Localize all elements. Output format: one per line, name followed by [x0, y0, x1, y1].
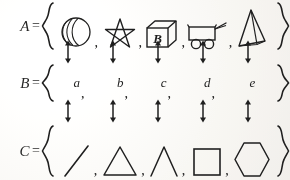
open-brace-A [41, 1, 55, 51]
diagonal-line-segment-icon [61, 140, 93, 180]
separator-comma: , [225, 164, 229, 178]
letter-e: e [249, 75, 255, 91]
separator-comma: , [95, 36, 99, 50]
sphere-icon [60, 16, 94, 52]
set-row-A: A = , , [0, 0, 290, 52]
separator-comma: , [81, 87, 85, 101]
item-square: , [187, 122, 230, 180]
cube-face-label: B [153, 31, 163, 46]
separator-comma: , [181, 36, 185, 50]
close-brace-C [276, 124, 290, 178]
item-letter-e: e [231, 63, 274, 103]
set-B-items: a , b , c , d , e [55, 63, 276, 103]
separator-comma: , [125, 87, 129, 101]
item-triangle: , [100, 122, 144, 180]
item-diagonal-line: , [57, 122, 100, 180]
five-pointed-star-icon [102, 16, 138, 52]
square-icon [190, 144, 224, 180]
close-brace-A [276, 1, 290, 51]
item-letter-b: b , [100, 63, 143, 103]
equals-sign-A: = [32, 18, 41, 34]
letter-a: a [74, 75, 81, 91]
item-sphere: , [57, 0, 100, 52]
set-label-A: A [0, 18, 32, 35]
set-A-items: , , B , [55, 0, 276, 52]
cube-with-letter-B-icon: B [144, 18, 180, 52]
set-row-C: C = , , [0, 122, 290, 180]
separator-comma: , [168, 87, 172, 101]
set-row-B: B = a , b , c , d , e [0, 63, 290, 103]
equals-sign-C: = [32, 143, 41, 159]
letter-d: d [204, 75, 211, 91]
set-label-B: B [0, 75, 32, 92]
item-hexagon [231, 122, 274, 180]
separator-comma: , [211, 87, 215, 101]
two-wheeled-cart-icon [186, 18, 228, 52]
hexagon-icon [232, 140, 272, 180]
item-angle-caret: , [144, 122, 187, 180]
close-brace-B [276, 63, 290, 103]
item-cube: B , [143, 0, 186, 52]
set-C-items: , , , , [55, 122, 276, 180]
item-pyramid [231, 0, 274, 52]
separator-comma: , [94, 164, 98, 178]
letter-c: c [161, 75, 167, 91]
item-letter-d: d , [187, 63, 230, 103]
item-star: , [100, 0, 143, 52]
open-angle-caret-icon [147, 142, 181, 180]
triangle-icon [100, 142, 140, 180]
open-brace-C [41, 124, 55, 178]
pyramid-icon [236, 8, 270, 52]
letter-b: b [117, 75, 124, 91]
item-letter-c: c , [144, 63, 187, 103]
item-cart: , [186, 0, 232, 52]
separator-comma: , [139, 36, 143, 50]
open-brace-B [41, 63, 55, 103]
item-letter-a: a , [57, 63, 100, 103]
equals-sign-B: = [32, 75, 41, 91]
set-label-C: C [0, 143, 32, 160]
separator-comma: , [182, 164, 186, 178]
